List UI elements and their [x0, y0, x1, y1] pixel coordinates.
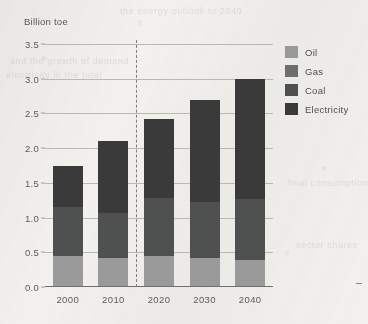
x-axis-baseline — [45, 286, 273, 287]
y-axis-tick-label: 3.5 — [25, 39, 39, 50]
legend-swatch-icon — [285, 46, 298, 58]
bar-segment-oil[interactable] — [235, 260, 265, 287]
ghost-text-line: sector shares — [296, 240, 358, 250]
y-axis-tick-label: 0.5 — [25, 247, 39, 258]
legend-item-electricity[interactable]: Electricity — [285, 103, 348, 115]
ghost-text-line: final consumption — [288, 178, 368, 188]
plot-area: 0.00.51.01.52.02.53.03.5 200020102020203… — [45, 44, 273, 287]
bar-2020[interactable] — [144, 119, 174, 287]
legend-label: Gas — [305, 66, 323, 77]
bar-segment-coal[interactable] — [144, 198, 174, 256]
y-axis-tick-mark — [41, 182, 45, 183]
legend-label: Coal — [305, 85, 326, 96]
bar-segment-electricity[interactable] — [53, 166, 83, 208]
x-axis-tick-label: 2000 — [56, 294, 79, 305]
bar-segment-electricity[interactable] — [235, 79, 265, 199]
y-axis-tick-label: 3.0 — [25, 73, 39, 84]
bar-2030[interactable] — [190, 100, 220, 287]
y-axis-tick-label: 2.0 — [25, 143, 39, 154]
legend-item-gas[interactable]: Gas — [285, 65, 348, 77]
y-axis-tick-label: 0.0 — [25, 282, 39, 293]
bar-segment-electricity[interactable] — [190, 100, 220, 203]
y-axis-tick-mark — [41, 148, 45, 149]
x-axis-tick-label: 2030 — [193, 294, 216, 305]
bar-segment-electricity[interactable] — [98, 141, 128, 213]
legend-label: Oil — [305, 47, 317, 58]
x-axis-tick-label: 2010 — [102, 294, 125, 305]
history-forecast-divider — [136, 40, 137, 287]
y-axis-tick-mark — [41, 44, 45, 45]
y-axis-tick-label: 1.5 — [25, 177, 39, 188]
x-axis-tick-label: 2020 — [148, 294, 171, 305]
legend-item-oil[interactable]: Oil — [285, 46, 348, 58]
y-axis-title: Billion toe — [24, 16, 68, 27]
bar-2000[interactable] — [53, 166, 83, 288]
bar-segment-coal[interactable] — [190, 202, 220, 258]
bar-2040[interactable] — [235, 79, 265, 287]
bar-segment-electricity[interactable] — [144, 119, 174, 198]
bar-segment-coal[interactable] — [235, 199, 265, 260]
y-axis-tick-mark — [41, 217, 45, 218]
bar-segment-oil[interactable] — [144, 256, 174, 287]
legend-swatch-icon — [285, 103, 298, 115]
bar-segment-coal[interactable] — [53, 207, 83, 256]
y-axis-tick-mark — [41, 78, 45, 79]
x-axis-tick-label: 2040 — [239, 294, 262, 305]
legend-label: Electricity — [305, 104, 348, 115]
bar-segment-oil[interactable] — [53, 256, 83, 287]
page-edge-mark — [356, 283, 362, 284]
chart-page: the energy outlook to 2040 and the growt… — [0, 0, 368, 324]
y-axis-tick-mark — [41, 252, 45, 253]
y-axis-tick-mark — [41, 113, 45, 114]
bar-2010[interactable] — [98, 141, 128, 287]
legend-swatch-icon — [285, 84, 298, 96]
ghost-text-line: the energy outlook to 2040 — [120, 6, 242, 16]
bar-segment-coal[interactable] — [98, 213, 128, 258]
legend-item-coal[interactable]: Coal — [285, 84, 348, 96]
bar-segment-oil[interactable] — [98, 258, 128, 287]
y-axis-tick-label: 1.0 — [25, 212, 39, 223]
y-axis-tick-label: 2.5 — [25, 108, 39, 119]
bar-segment-oil[interactable] — [190, 258, 220, 287]
legend-swatch-icon — [285, 65, 298, 77]
chart-legend: OilGasCoalElectricity — [285, 46, 348, 115]
gridline — [45, 44, 273, 45]
